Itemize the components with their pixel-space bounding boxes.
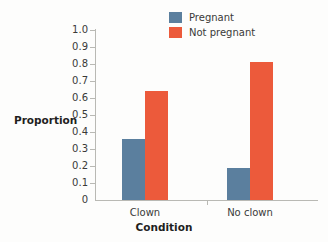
bar-clown-not-pregnant xyxy=(145,91,168,200)
legend-item-pregnant[interactable]: Pregnant xyxy=(169,11,255,24)
bar-noclown-not-pregnant xyxy=(250,62,273,200)
x-tick-label-no-clown: No clown xyxy=(210,207,290,218)
bar-chart: 1.0 0.9 0.8 0.7 0.6 0.5 0.4 0.3 0.2 0.1 … xyxy=(0,0,328,242)
x-tick-mark xyxy=(207,200,208,205)
legend: Pregnant Not pregnant xyxy=(169,11,255,41)
plot-area xyxy=(96,30,318,200)
legend-label-not-pregnant: Not pregnant xyxy=(189,27,255,38)
legend-swatch-pregnant xyxy=(169,12,182,23)
legend-label-pregnant: Pregnant xyxy=(189,12,234,23)
y-axis-title: Proportion xyxy=(14,115,77,126)
bar-noclown-pregnant xyxy=(227,168,250,200)
legend-swatch-not-pregnant xyxy=(169,27,182,38)
x-axis-title: Condition xyxy=(0,222,328,233)
legend-item-not-pregnant[interactable]: Not pregnant xyxy=(169,26,255,39)
x-tick-label-clown: Clown xyxy=(105,207,185,218)
bar-clown-pregnant xyxy=(122,139,145,200)
